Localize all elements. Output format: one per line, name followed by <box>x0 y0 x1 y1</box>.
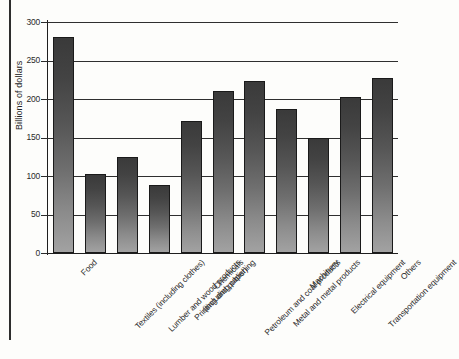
y-tick-100 <box>41 176 48 177</box>
gridline-300 <box>48 22 398 23</box>
y-tick-label-250: 250 <box>20 55 40 65</box>
bar <box>149 185 170 253</box>
y-tick-150 <box>41 138 48 139</box>
bar <box>372 78 393 253</box>
gridline-250 <box>48 61 398 62</box>
y-tick-label-0: 0 <box>20 248 40 258</box>
y-tick-label-50: 50 <box>20 209 40 219</box>
bar <box>53 37 74 253</box>
bar <box>213 91 234 253</box>
bar <box>117 157 138 253</box>
bar <box>85 174 106 253</box>
y-tick-label-300: 300 <box>20 17 40 27</box>
y-tick-label-100: 100 <box>20 171 40 181</box>
y-tick-label-200: 200 <box>20 94 40 104</box>
gridline-0 <box>48 253 398 254</box>
y-tick-300 <box>41 22 48 23</box>
bar <box>308 138 329 254</box>
bar <box>340 97 361 253</box>
bar <box>181 121 202 253</box>
bar <box>276 109 297 253</box>
x-axis-label: Food <box>79 258 99 278</box>
y-tick-0 <box>41 253 48 254</box>
y-tick-200 <box>41 99 48 100</box>
plot-area <box>48 22 398 253</box>
y-tick-50 <box>41 215 48 216</box>
bar <box>244 81 265 253</box>
y-tick-label-150: 150 <box>20 132 40 142</box>
y-tick-250 <box>41 61 48 62</box>
